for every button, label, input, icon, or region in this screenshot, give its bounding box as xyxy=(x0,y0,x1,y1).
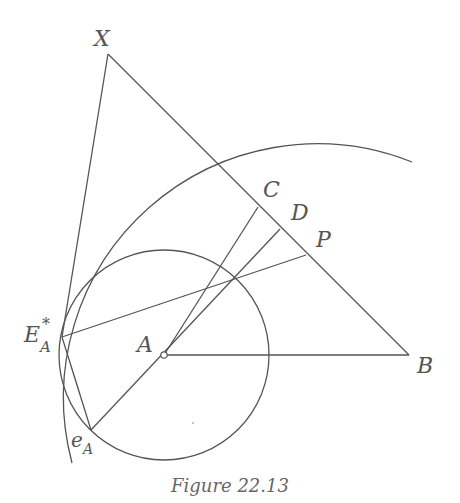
segment-AC xyxy=(164,207,258,355)
svg-text:*: * xyxy=(42,315,50,334)
label-D: D xyxy=(290,200,309,225)
label-C: C xyxy=(263,177,280,202)
svg-text:E: E xyxy=(23,322,40,347)
label-E-A-star: E * A xyxy=(23,315,51,356)
segment-eD xyxy=(91,229,280,430)
label-B: B xyxy=(416,353,433,378)
stray-dot xyxy=(192,422,194,424)
svg-text:e: e xyxy=(71,428,83,452)
geometry-figure: X A B C D P E * A e A Figure 22.13 xyxy=(0,0,460,503)
large-tangent-arc xyxy=(63,144,412,463)
label-X: X xyxy=(92,26,111,51)
label-P: P xyxy=(315,227,332,252)
svg-text:A: A xyxy=(38,338,51,356)
label-e-A: e A xyxy=(71,428,93,457)
point-A-marker xyxy=(161,352,167,358)
figure-caption: Figure 22.13 xyxy=(170,475,289,496)
segment-Ee xyxy=(62,337,91,430)
label-A: A xyxy=(135,332,153,357)
svg-text:A: A xyxy=(81,441,93,457)
